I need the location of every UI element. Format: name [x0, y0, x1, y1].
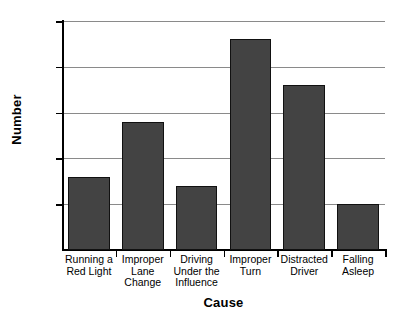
x-axis-category-label-line: Driving [170, 254, 224, 266]
x-axis-category-label-line: Asleep [331, 266, 385, 278]
bar [122, 122, 164, 250]
x-axis-category-label-line: Turn [224, 266, 278, 278]
bar-chart: Number 0510152025 Running aRed LightImpr… [0, 0, 404, 315]
x-axis-title: Cause [62, 295, 385, 310]
x-axis-category-label: DistractedDriver [277, 254, 331, 277]
bar [337, 204, 379, 250]
y-axis-title: Number [9, 80, 24, 160]
x-axis-category-label-line: Distracted [277, 254, 331, 266]
bar [176, 186, 218, 250]
x-axis-category-label-line: Falling [331, 254, 385, 266]
x-axis-category-label-line: Running a [62, 254, 116, 266]
x-axis-category-label: ImproperTurn [224, 254, 278, 277]
x-axis-category-label-line: Improper [116, 254, 170, 266]
x-axis-category-label: FallingAsleep [331, 254, 385, 277]
x-axis-category-label-line: Driver [277, 266, 331, 278]
x-axis-category-label: ImproperLaneChange [116, 254, 170, 289]
x-axis-category-label-line: Influence [170, 277, 224, 289]
bars-group [62, 21, 385, 250]
x-axis-category-label: DrivingUnder theInfluence [170, 254, 224, 289]
bar [68, 177, 110, 250]
bar [230, 39, 272, 250]
x-axis-category-label-line: Improper [224, 254, 278, 266]
x-axis-category-labels: Running aRed LightImproperLaneChangeDriv… [62, 254, 385, 296]
bar [283, 85, 325, 250]
x-axis-category-label: Running aRed Light [62, 254, 116, 277]
x-axis-tick-mark [385, 251, 387, 257]
x-axis-category-label-line: Change [116, 277, 170, 289]
x-axis-category-label-line: Red Light [62, 266, 116, 278]
